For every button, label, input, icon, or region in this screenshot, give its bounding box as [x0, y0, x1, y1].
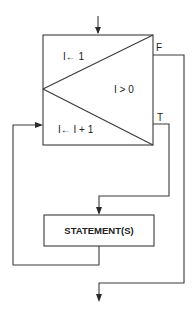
- entry-arrow: [95, 16, 101, 34]
- statement-label: STATEMENT(S): [64, 225, 133, 236]
- increment-label: I← I + 1: [58, 124, 94, 135]
- true-label: T: [157, 112, 163, 123]
- flowchart-diagram: I← 1 I > 0 I← I + 1 F T STATEMENT(S): [0, 0, 196, 319]
- condition-label: I > 0: [114, 84, 134, 95]
- init-label: I← 1: [63, 51, 85, 62]
- false-label: F: [156, 42, 162, 53]
